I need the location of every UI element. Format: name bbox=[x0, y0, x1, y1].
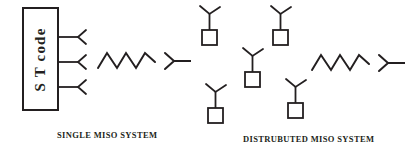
receive-antenna-left bbox=[165, 53, 191, 69]
distributed-node-4 bbox=[206, 84, 226, 123]
distributed-miso-group bbox=[200, 6, 405, 123]
st-code-box bbox=[23, 8, 58, 110]
radio-wave-right bbox=[312, 55, 369, 70]
transmit-antenna-2 bbox=[58, 55, 86, 69]
receive-antenna-right bbox=[379, 55, 405, 71]
distributed-node-2 bbox=[271, 6, 291, 45]
distributed-node-5 bbox=[286, 79, 306, 118]
radio-wave-left bbox=[98, 53, 155, 68]
transmit-antenna-3 bbox=[58, 80, 86, 94]
caption-single-miso-system: SINGLE MISO SYSTEM bbox=[57, 131, 157, 140]
distributed-node-1 bbox=[200, 6, 220, 45]
caption-distributed-miso-system: DISTRUBUTED MISO SYSTEM bbox=[243, 135, 374, 144]
transmit-antenna-1 bbox=[58, 30, 86, 44]
distributed-node-3 bbox=[243, 48, 263, 87]
single-miso-group bbox=[23, 8, 191, 110]
miso-system-figure: S T code SINGLE MISO SYSTEM DISTRUBUTED … bbox=[0, 0, 419, 153]
